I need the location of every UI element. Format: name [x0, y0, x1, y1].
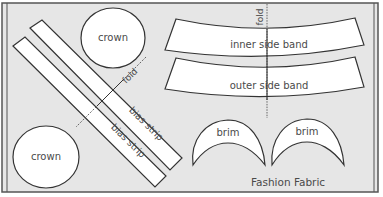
- crown-piece-bottom: crown: [13, 126, 79, 188]
- fabric-label: Fashion Fabric: [251, 176, 325, 188]
- crown-piece-top: crown: [81, 8, 145, 68]
- brim-left-label: brim: [217, 127, 240, 138]
- outer-side-band-label: outer side band: [230, 80, 309, 91]
- crown-bottom-label: crown: [31, 151, 61, 162]
- crown-top-label: crown: [98, 32, 128, 43]
- band-fold-label: fold: [255, 9, 265, 26]
- inner-side-band-label: inner side band: [230, 39, 308, 50]
- brim-right-label: brim: [296, 126, 319, 137]
- pattern-layout-diagram: crown crown bias strip bias strip fold i…: [0, 0, 383, 197]
